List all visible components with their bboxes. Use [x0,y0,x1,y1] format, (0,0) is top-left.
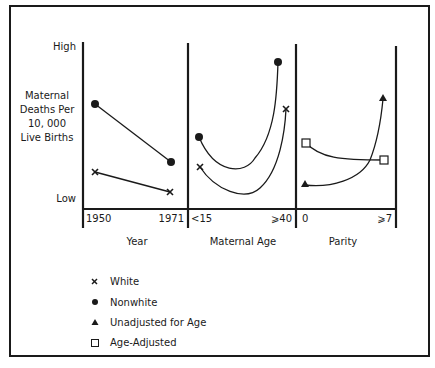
circle-marker [91,100,99,108]
y-tick-high: High [53,41,76,52]
x-title-maternal-age: Maternal Age [210,236,277,247]
legend-label-unadjusted: Unadjusted for Age [110,317,206,328]
circle-marker [274,58,282,66]
legend-x-icon [92,279,97,284]
triangle-marker [301,180,309,187]
x-tick-parity-start: 0 [302,213,308,224]
panel-maternal-age [195,58,289,194]
triangle-marker [379,94,387,101]
legend-circle-icon [92,299,98,305]
svg-text:10, 000: 10, 000 [28,118,66,129]
svg-text:Maternal: Maternal [25,90,69,101]
y-tick-low: Low [56,193,76,204]
y-axis-title: Maternal Deaths Per 10, 000 Live Births [20,90,75,143]
legend-square-icon [92,340,99,347]
circle-marker [195,133,203,141]
chart-frame [10,6,429,356]
legend-label-white: White [110,276,139,287]
legend-label-age-adjusted: Age-Adjusted [110,337,177,348]
circle-marker [167,158,175,166]
axes [82,42,397,228]
svg-text:Deaths Per: Deaths Per [20,104,75,115]
x-title-parity: Parity [329,236,358,247]
x-tick-parity-end: ⩾7 [377,213,392,224]
panel-year [91,100,175,195]
maternal-deaths-chart: High Low Maternal Deaths Per 10, 000 Liv… [0,0,435,368]
legend-label-nonwhite: Nonwhite [110,297,157,308]
x-marker [197,106,289,170]
x-tick-1971: 1971 [159,213,184,224]
x-title-year: Year [125,236,148,247]
x-tick-age-end: ⩾40 [271,213,292,224]
square-marker [302,139,310,147]
legend: White Nonwhite Unadjusted for Age Age-Ad… [92,276,207,348]
panel-parity [301,94,388,187]
x-tick-1950: 1950 [86,213,111,224]
legend-triangle-icon [92,319,99,325]
x-tick-age-start: <15 [191,213,212,224]
square-marker [380,156,388,164]
svg-text:Live Births: Live Births [21,132,74,143]
